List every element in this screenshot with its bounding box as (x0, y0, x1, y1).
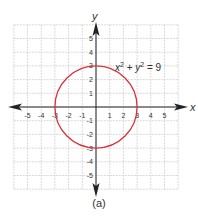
svg-text:-5: -5 (24, 112, 30, 119)
svg-text:-2: -2 (65, 112, 71, 119)
svg-text:5: 5 (163, 112, 167, 119)
graph-figure: xy -5-4-3-2-112345-5-4-3-2-112345 x2 + y… (0, 0, 198, 218)
axes: xy (8, 10, 196, 197)
svg-text:-4: -4 (87, 158, 93, 165)
svg-text:2: 2 (121, 112, 125, 119)
figure-caption: (a) (0, 197, 198, 209)
svg-text:x2 + y2 = 9: x2 + y2 = 9 (114, 61, 162, 73)
svg-text:-4: -4 (38, 112, 44, 119)
svg-text:1: 1 (108, 112, 112, 119)
svg-text:4: 4 (149, 112, 153, 119)
svg-text:4: 4 (89, 49, 93, 56)
svg-text:-1: -1 (87, 117, 93, 124)
equation-label: x2 + y2 = 9 (114, 61, 162, 73)
svg-text:1: 1 (89, 90, 93, 97)
svg-text:2: 2 (89, 76, 93, 83)
svg-text:y: y (91, 10, 99, 22)
svg-text:-5: -5 (87, 172, 93, 179)
svg-text:5: 5 (89, 35, 93, 42)
svg-text:x: x (189, 101, 196, 113)
svg-text:-2: -2 (87, 131, 93, 138)
svg-text:-1: -1 (79, 112, 85, 119)
